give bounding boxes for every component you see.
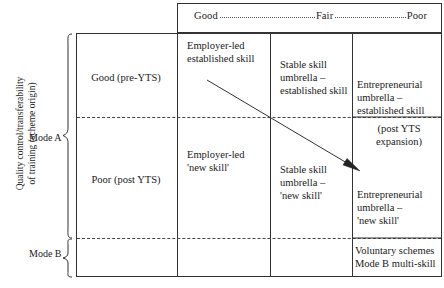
column-header-scale: Good Fair Poor xyxy=(194,10,427,21)
cell-post-yts-expansion: (post YTSexpansion) xyxy=(355,122,443,148)
cell-stable-umbrella-new: Stable skillumbrella –'new skill' xyxy=(280,163,362,202)
mode-a-brace-icon xyxy=(63,34,72,238)
column-header-box: Good Fair Poor xyxy=(177,3,442,33)
header-label-poor: Poor xyxy=(407,10,427,21)
mode-b-brace-icon xyxy=(63,239,72,277)
row-label-poor-post-yts: Poor (post YTS) xyxy=(76,173,176,186)
cell-voluntary-schemes: Voluntary schemesMode B multi-skill xyxy=(355,244,444,270)
mode-b-label: Mode B xyxy=(29,248,62,259)
mode-a-label: Mode A xyxy=(29,132,62,143)
header-label-fair: Fair xyxy=(316,10,333,21)
dotted-leader-icon xyxy=(220,16,315,18)
grid-column-divider-1 xyxy=(177,34,178,276)
y-axis-label-line1: Quality control/transferability xyxy=(15,36,27,232)
cell-stable-umbrella-established: Stable skillumbrella –established skill xyxy=(280,58,362,97)
grid-row-divider-dashed-1 xyxy=(77,117,441,118)
cell-employer-led-new: Employer-led'new skill' xyxy=(187,148,279,174)
grid-row-divider-dashed-2 xyxy=(77,238,441,239)
cell-employer-led-established: Employer-ledestablished skill xyxy=(187,39,279,65)
matrix-diagram: Good Fair Poor Good (pre-YTS) Poor (post… xyxy=(0,0,444,288)
dotted-leader-icon xyxy=(335,16,406,18)
cell-entrepreneurial-established: Entrepreneurialumbrella –established ski… xyxy=(357,78,443,117)
header-label-good: Good xyxy=(194,10,218,21)
row-label-good-pre-yts: Good (pre-YTS) xyxy=(76,71,176,84)
cell-entrepreneurial-new: Entrepreneurialumbrella –'new skill' xyxy=(357,188,443,227)
